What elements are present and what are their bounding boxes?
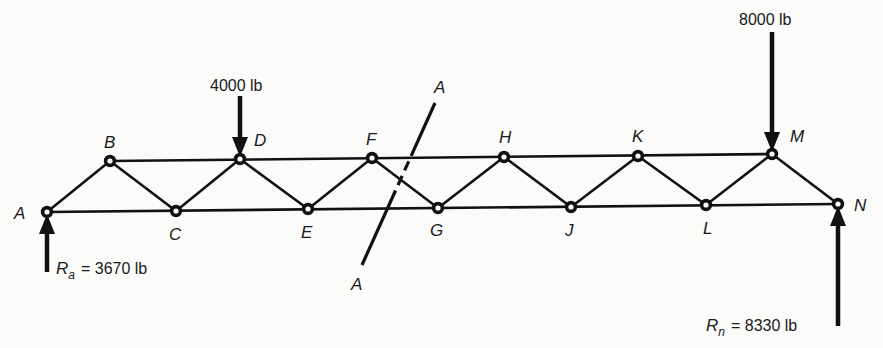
reaction-label-a: Ra= 3670 lb bbox=[56, 259, 147, 282]
member-CD bbox=[176, 159, 240, 211]
reaction-label-n: Rn= 8330 lb bbox=[706, 316, 797, 339]
member-KL bbox=[638, 156, 706, 205]
member-BM bbox=[110, 154, 772, 161]
node-label-j: J bbox=[564, 221, 574, 240]
truss-members bbox=[47, 154, 838, 212]
node-label-n: N bbox=[854, 196, 867, 215]
truss-diagram: ABCDEFGHJKLMN4000 lb8000 lbRa= 3670 lbRn… bbox=[0, 0, 883, 348]
joint-g bbox=[432, 202, 444, 214]
node-label-m: M bbox=[790, 127, 805, 146]
load-label-m: 8000 lb bbox=[739, 11, 792, 28]
node-label-h: H bbox=[499, 128, 512, 147]
node-label-k: K bbox=[632, 127, 644, 146]
section-label-top: A bbox=[433, 78, 445, 97]
node-label-g: G bbox=[430, 221, 443, 240]
member-DE bbox=[240, 159, 308, 209]
joint-j bbox=[565, 201, 577, 213]
node-label-d: D bbox=[254, 131, 266, 150]
joint-h bbox=[498, 151, 510, 163]
member-HJ bbox=[504, 157, 571, 207]
member-JK bbox=[571, 156, 638, 207]
section-line bbox=[362, 103, 435, 265]
node-label-a: A bbox=[13, 204, 25, 223]
load-label-d: 4000 lb bbox=[210, 77, 263, 94]
joint-m bbox=[766, 148, 778, 160]
member-LM bbox=[706, 154, 772, 205]
joint-b bbox=[104, 155, 116, 167]
force-arrows bbox=[39, 32, 846, 326]
member-GH bbox=[438, 157, 504, 208]
joint-k bbox=[632, 150, 644, 162]
node-label-e: E bbox=[301, 223, 313, 242]
joint-l bbox=[700, 199, 712, 211]
member-MN bbox=[772, 154, 838, 204]
member-FG bbox=[372, 158, 438, 208]
joint-c bbox=[170, 205, 182, 217]
node-label-c: C bbox=[169, 225, 182, 244]
joint-d bbox=[234, 153, 246, 165]
member-BC bbox=[110, 161, 176, 211]
joint-n bbox=[832, 198, 844, 210]
truss-canvas: ABCDEFGHJKLMN4000 lb8000 lbRa= 3670 lbRn… bbox=[0, 0, 883, 348]
member-EF bbox=[308, 158, 372, 209]
joint-a bbox=[41, 206, 53, 218]
section-label-bottom: A bbox=[350, 275, 362, 294]
node-label-l: L bbox=[703, 219, 712, 238]
labels: ABCDEFGHJKLMN4000 lb8000 lbRa= 3670 lbRn… bbox=[13, 11, 867, 339]
node-label-f: F bbox=[366, 130, 378, 149]
section-cut-a-a bbox=[362, 103, 435, 265]
joint-f bbox=[366, 152, 378, 164]
joint-e bbox=[302, 203, 314, 215]
node-label-b: B bbox=[104, 133, 115, 152]
member-AB bbox=[47, 161, 110, 212]
